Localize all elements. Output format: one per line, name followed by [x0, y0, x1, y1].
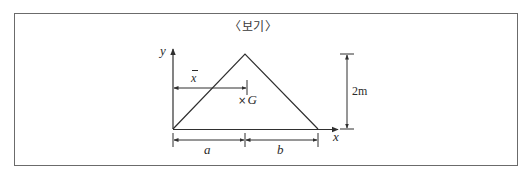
base-dimension: [173, 133, 318, 147]
overbar: [192, 70, 198, 71]
x-axis-label: x: [333, 130, 339, 143]
triangle-shape: [173, 54, 318, 129]
centroid-distance-dimension: [174, 80, 247, 95]
y-axis-label: y: [160, 44, 166, 57]
centroid-label: ×G: [238, 93, 257, 106]
centroid-distance-label: x: [191, 72, 196, 84]
centroid-letter: G: [247, 92, 256, 107]
height-label: 2m: [352, 85, 367, 97]
centroid-distance-letter: x: [191, 71, 196, 85]
centroid-marker-icon: ×: [238, 95, 246, 106]
figure-title: 〈보기〉: [229, 21, 277, 33]
left-base-label: a: [204, 143, 211, 156]
right-base-label: b: [277, 143, 284, 156]
